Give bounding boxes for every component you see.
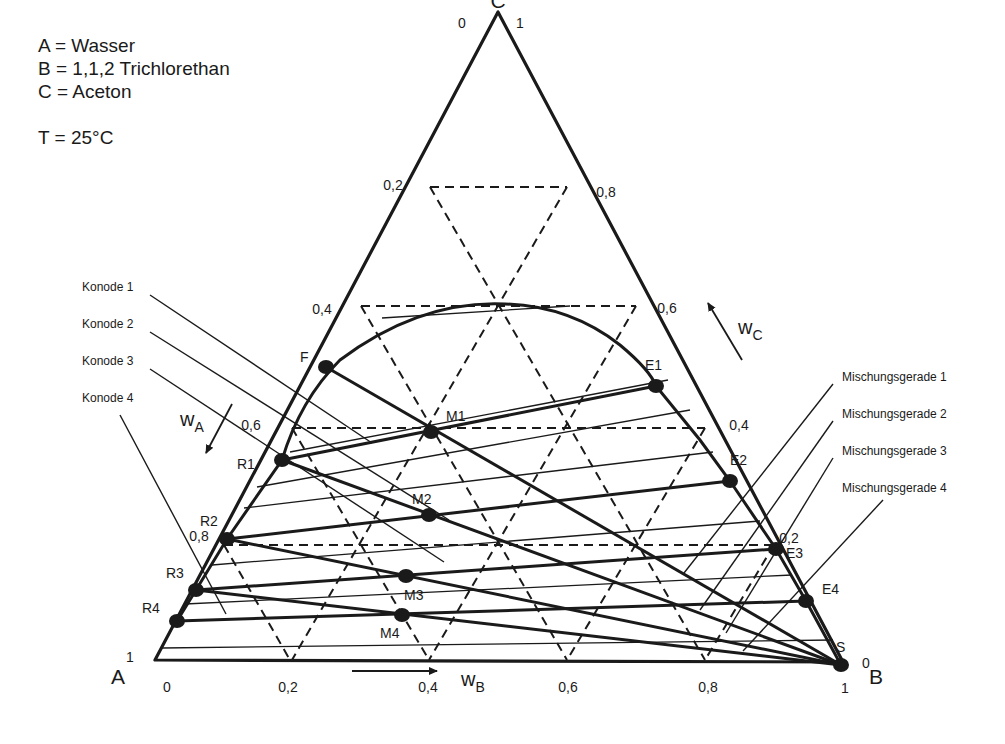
konode-labels: Konode 1Konode 2Konode 3Konode 4 (82, 280, 134, 405)
right-tick: 0,4 (729, 417, 749, 433)
vertex-labels: A B C (111, 0, 883, 688)
mischungsgerade-label: Mischungsgerade 3 (842, 444, 947, 458)
mischungsgerade-leader-line (700, 421, 833, 610)
right-tick: 1 (516, 15, 524, 31)
mischungsgerade-label: Mischungsgerade 4 (842, 481, 947, 495)
konode-label: Konode 3 (82, 354, 134, 368)
point-label-m1: M1 (446, 408, 466, 424)
point-label-r3: R3 (166, 565, 184, 581)
bottom-tick: 0,4 (418, 679, 438, 695)
left-tick: 0,4 (312, 301, 332, 317)
point-label-m4: M4 (380, 625, 400, 641)
vertex-label-c: C (490, 0, 505, 12)
svg-text:wC: wC (737, 316, 763, 343)
mischungsgerade-leader-line (684, 384, 833, 573)
mischungsgerade-labels: Mischungsgerade 1Mischungsgerade 2Mischu… (842, 370, 947, 495)
bottom-tick: 0,8 (698, 679, 718, 695)
point-label-r1: R1 (237, 456, 255, 472)
mischungsgerade-label: Mischungsgerade 1 (842, 370, 947, 384)
wa-label: w (179, 408, 195, 430)
left-tick: 0,2 (383, 177, 403, 193)
point-marker-m4 (394, 608, 410, 622)
point-marker-m2 (421, 508, 437, 522)
wb-subscript: B (475, 679, 484, 695)
left-tick: 0,6 (241, 417, 261, 433)
point-label-r4: R4 (142, 600, 160, 616)
point-marker-f (318, 360, 334, 374)
bottom-tick: 0 (163, 679, 171, 695)
point-label-m3: M3 (404, 587, 424, 603)
bottom-tick: 1 (841, 680, 849, 696)
point-label-s: S (836, 639, 845, 655)
annotation-leader-lines (120, 295, 883, 651)
point-marker-m1 (423, 425, 439, 439)
konode-label: Konode 1 (82, 280, 134, 294)
point-marker-e4 (798, 594, 814, 608)
vertex-label-b: B (869, 665, 883, 688)
wc-subscript: C (752, 327, 762, 343)
wc-label: w (737, 316, 753, 338)
wb-label: w (460, 668, 476, 690)
right-tick: 0,2 (779, 530, 799, 546)
point-marker-s (833, 658, 849, 672)
bottom-tick: 0,6 (558, 679, 578, 695)
wc-arrow-icon (708, 303, 742, 360)
point-marker-r2 (219, 532, 235, 546)
point-label-e4: E4 (822, 581, 839, 597)
point-marker-m3 (398, 569, 414, 583)
mischungsgerade-leader-line (743, 500, 883, 651)
vertex-label-a: A (111, 665, 125, 688)
svg-text:wB: wB (460, 668, 485, 695)
left-tick: 1 (126, 649, 134, 665)
ternary-diagram: Konode 1Konode 2Konode 3Konode 4 Mischun… (0, 0, 1005, 744)
point-label-e1: E1 (645, 357, 662, 373)
right-tick: 0,6 (657, 300, 677, 316)
point-marker-e2 (722, 474, 738, 488)
point-marker-r1 (274, 453, 290, 467)
konode-lines (177, 386, 806, 621)
konode-label: Konode 4 (82, 391, 134, 405)
konode-label: Konode 2 (82, 317, 134, 331)
point-label-m2: M2 (412, 491, 432, 507)
point-label-e3: E3 (786, 545, 803, 561)
point-marker-r4 (169, 614, 185, 628)
bottom-tick: 0,2 (278, 679, 298, 695)
point-label-f: F (300, 349, 309, 365)
left-tick: 0 (458, 15, 466, 31)
point-label-r2: R2 (200, 513, 218, 529)
point-label-e2: E2 (730, 452, 747, 468)
svg-text:wA: wA (179, 408, 204, 435)
wa-subscript: A (194, 419, 204, 435)
mischungsgerade-label: Mischungsgerade 2 (842, 407, 947, 421)
point-marker-e1 (648, 379, 664, 393)
left-tick: 0,8 (189, 528, 209, 544)
point-marker-r3 (188, 583, 204, 597)
right-tick: 0,8 (596, 184, 616, 200)
wa-arrow-icon (206, 404, 232, 453)
